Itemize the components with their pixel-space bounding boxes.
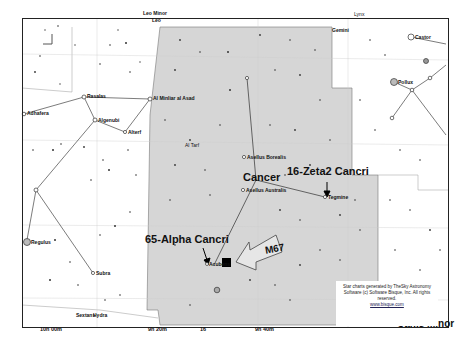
star-label-algenubi: Algenubi	[98, 118, 119, 123]
ra-label-10h00m: 10h 00m	[40, 326, 62, 332]
constellation-label-hydra: Hydra	[93, 313, 107, 318]
star-label-adhafera: Adhafera	[27, 111, 49, 116]
constellation-label-leo: Leo	[152, 18, 161, 23]
star-label-acubens: Acubens	[209, 262, 230, 267]
zeta2-cancri-label: 16-Zeta2 Cancri	[287, 166, 369, 177]
ra-label-9h20m: 9h 20m	[148, 326, 167, 332]
star-label-alterf: Alterf	[128, 130, 141, 135]
ra-label-16: 16	[200, 326, 206, 332]
star-label-subra: Subra	[96, 271, 110, 276]
star-chart: Leo Minor Leo Gemini Lynx Sextans Hydra …	[0, 0, 469, 343]
star-label-al-tarf: Al Tarf	[185, 143, 199, 148]
star-label-asellus-borealis: Asellus Borealis	[247, 155, 286, 160]
star-label-asellus-australis: Asellus Australis	[246, 188, 286, 193]
alpha-cancri-label: 65-Alpha Cancri	[145, 234, 229, 245]
star-label-castor: Castor	[415, 35, 431, 40]
constellation-label-lynx: Lynx	[354, 12, 364, 17]
credit-text: Star charts generated by TheSky Astronom…	[336, 284, 438, 302]
star-label-regulus: Regulus	[31, 240, 51, 245]
star-label-al-minliar: Al Minliar al Asad	[153, 96, 195, 101]
credit-box: Star charts generated by TheSky Astronom…	[336, 281, 438, 326]
cancer-label: Cancer	[243, 172, 280, 183]
constellation-label-gemini: Gemini	[332, 28, 349, 33]
star-label-tegmine: Tegmine	[328, 195, 348, 200]
credit-link[interactable]: www.bisque.com	[336, 302, 438, 308]
star-label-rasalas: Rasalas	[87, 94, 106, 99]
constellation-label-leo-minor: Leo Minor	[143, 11, 167, 16]
star-label-pollux: Pollux	[398, 80, 413, 85]
ra-label-9h40m: 9h 40m	[255, 326, 274, 332]
